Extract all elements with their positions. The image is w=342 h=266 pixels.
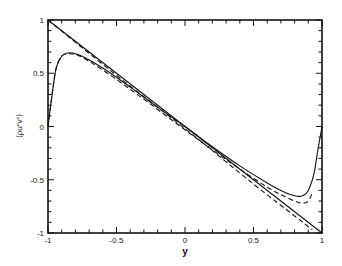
chart: -1-0.500.5110.50-0.5-1 y ⟨ρu″v″⟩ <box>0 0 342 266</box>
y-axis-title: ⟨ρu″v″⟩ <box>15 114 24 139</box>
y-tick-label: 0 <box>40 123 45 132</box>
x-tick-label: -0.5 <box>110 236 124 245</box>
x-tick-label: 1 <box>320 236 325 245</box>
series-line-3 <box>48 54 312 203</box>
y-tick-label: -0.5 <box>30 176 44 185</box>
y-tick-label: 0.5 <box>33 69 45 78</box>
plot-series <box>48 20 322 233</box>
plot-axes: -1-0.500.5110.50-0.5-1 <box>30 16 325 245</box>
series-line-2 <box>48 53 322 197</box>
x-tick-label: 0 <box>183 236 188 245</box>
x-axis-title: y <box>182 246 188 257</box>
x-tick-label: 0.5 <box>248 236 260 245</box>
y-tick-label: 1 <box>40 16 45 25</box>
y-tick-label: -1 <box>37 229 45 238</box>
x-tick-label: -1 <box>44 236 52 245</box>
